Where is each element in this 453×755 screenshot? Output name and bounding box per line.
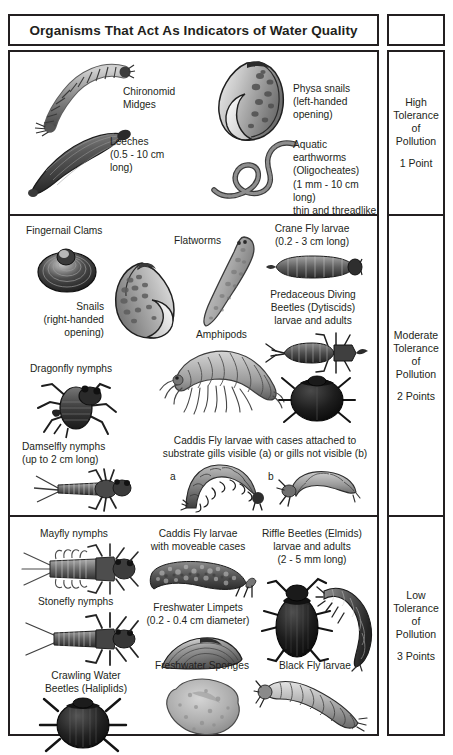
chironomid-midges-caption: Chironomid Midges (123, 85, 175, 111)
tolerance-header-box (387, 14, 445, 46)
caddis-fly-larvae-moveable-caption: Caddis Fly larvae with moveable cases (138, 527, 258, 553)
freshwater-sponges-caption: Freshwater Sponges (138, 659, 266, 672)
predaceous-diving-beetles-caption: Predaceous Diving Beetles (Dytiscids) la… (254, 288, 372, 328)
snails-right-handed-illustration (108, 260, 180, 346)
tolerance-high-line4: Pollution (396, 135, 436, 148)
caddis-fly-larvae-attached-caption: Caddis Fly larvae with cases attached to… (144, 434, 386, 460)
damselfly-nymphs-caption: Damselfly nymphs (up to 2 cm long) (22, 440, 105, 466)
organisms-body: Chironomid Midges (8, 50, 379, 736)
freshwater-limpets-caption: Freshwater Limpets (0.2 - 0.4 cm diamete… (132, 601, 264, 627)
section-high-tolerance: Chironomid Midges (10, 52, 377, 216)
caddis-fly-larvae-moveable-illustration (148, 559, 256, 601)
caddis-sublabel-a: a (170, 471, 176, 482)
tolerance-low-points: 3 Points (397, 650, 435, 663)
tolerance-low-line4: Pollution (396, 628, 436, 641)
predaceous-diving-beetle-larva-illustration (262, 332, 368, 374)
fingernail-clams-illustration (36, 240, 98, 294)
chironomid-midges-illustration (24, 64, 134, 136)
caddis-sublabel-b: b (268, 471, 274, 482)
water-quality-indicator-chart: Organisms That Act As Indicators of Wate… (8, 14, 445, 736)
aquatic-earthworms-caption: Aquatic earthworms (Oligocheates) (1 mm … (293, 138, 377, 217)
black-fly-larvae-caption: Black Fly larvae (256, 659, 374, 672)
black-fly-larvae-illustration (258, 675, 368, 733)
chart-title-box: Organisms That Act As Indicators of Wate… (8, 14, 379, 46)
physa-snails-illustration (213, 60, 289, 144)
predaceous-diving-beetle-adult-illustration (278, 374, 356, 426)
organisms-column: Organisms That Act As Indicators of Wate… (8, 14, 379, 736)
caddis-fly-larva-gills-not-visible-illustration (276, 466, 360, 508)
tolerance-high-points: 1 Point (400, 157, 433, 170)
tolerance-cell-high: High Tolerance of Pollution 1 Point (389, 52, 443, 216)
crawling-water-beetles-caption: Crawling Water Beetles (Haliplids) (34, 669, 138, 695)
fingernail-clams-caption: Fingernail Clams (26, 224, 102, 237)
tolerance-cell-low: Low Tolerance of Pollution 3 Points (389, 517, 443, 734)
crane-fly-larvae-caption: Crane Fly larvae (0.2 - 3 cm long) (256, 222, 368, 248)
tolerance-moderate-line1: Moderate (394, 329, 438, 342)
mayfly-nymphs-caption: Mayfly nymphs (40, 527, 108, 540)
freshwater-sponges-illustration (162, 677, 244, 737)
section-moderate-tolerance: Fingernail Clams (10, 216, 377, 517)
snails-right-handed-caption: Snails (right-handed opening) (18, 300, 104, 340)
tolerance-cell-moderate: Moderate Tolerance of Pollution 2 Points (389, 216, 443, 517)
crawling-water-beetles-illustration (38, 695, 130, 755)
riffle-beetle-larva-illustration (316, 579, 378, 671)
riffle-beetles-caption: Riffle Beetles (Elmids) larvae and adult… (248, 527, 376, 567)
caddis-fly-larva-gills-visible-illustration (180, 460, 264, 512)
mayfly-nymphs-illustration (22, 543, 138, 595)
tolerance-high-line3: of (412, 122, 421, 135)
tolerance-moderate-line4: Pollution (396, 368, 436, 381)
crane-fly-larvae-illustration (266, 254, 362, 280)
dragonfly-nymphs-caption: Dragonfly nymphs (30, 362, 112, 375)
stonefly-nymphs-caption: Stonefly nymphs (38, 595, 113, 608)
tolerance-high-line1: High (405, 96, 427, 109)
tolerance-low-line2: Tolerance (393, 602, 439, 615)
section-low-tolerance: Mayfly nymphs (10, 517, 377, 734)
leeches-caption: Leeches (0.5 - 10 cm long) (110, 135, 164, 175)
tolerance-low-line1: Low (406, 589, 425, 602)
physa-snails-caption: Physa snails (left-handed opening) (293, 82, 350, 122)
damselfly-nymphs-illustration (32, 468, 132, 512)
tolerance-low-line3: of (412, 615, 421, 628)
stonefly-nymphs-illustration (24, 611, 138, 667)
tolerance-moderate-line2: Tolerance (393, 342, 439, 355)
page-title: Organisms That Act As Indicators of Wate… (29, 23, 357, 38)
tolerance-moderate-points: 2 Points (397, 390, 435, 403)
tolerance-moderate-line3: of (412, 355, 421, 368)
tolerance-high-line2: Tolerance (393, 109, 439, 122)
dragonfly-nymphs-illustration (30, 376, 120, 442)
tolerance-body: High Tolerance of Pollution 1 Point Mode… (387, 50, 445, 736)
amphipods-caption: Amphipods (196, 328, 247, 341)
aquatic-earthworms-illustration (208, 138, 298, 204)
tolerance-column: High Tolerance of Pollution 1 Point Mode… (387, 14, 445, 736)
